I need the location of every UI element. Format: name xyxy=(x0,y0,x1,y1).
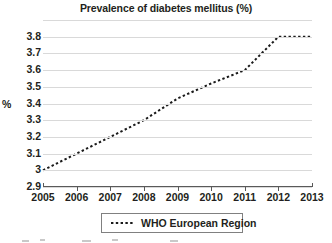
gridline xyxy=(43,154,312,155)
y-tick-label: 3.4 xyxy=(1,98,41,109)
page-edge-artifacts xyxy=(0,238,332,243)
x-axis-tick xyxy=(178,187,179,191)
y-tick-label: 3.6 xyxy=(1,64,41,75)
legend-label-who-european-region: WHO European Region xyxy=(141,217,257,229)
y-tick-label: 3.5 xyxy=(1,81,41,92)
gridline xyxy=(43,20,312,21)
chart-legend: WHO European Region xyxy=(101,213,243,233)
gridline xyxy=(43,170,312,171)
y-tick-label: 3.2 xyxy=(1,131,41,142)
x-tick-label: 2013 xyxy=(292,191,332,203)
artifact-mark xyxy=(40,239,45,241)
x-axis-tick xyxy=(144,187,145,191)
artifact-mark xyxy=(22,240,29,242)
x-axis-tick xyxy=(110,187,111,191)
gridline xyxy=(43,70,312,71)
gridline xyxy=(43,37,312,38)
x-axis-tick xyxy=(77,187,78,191)
x-axis-tick xyxy=(245,187,246,191)
gridline xyxy=(43,137,312,138)
y-tick-label: 3.7 xyxy=(1,47,41,58)
y-tick-label: 3.3 xyxy=(1,114,41,125)
y-tick-label: 3.8 xyxy=(1,31,41,42)
artifact-mark xyxy=(112,239,118,241)
x-axis-left-cap xyxy=(43,183,44,187)
y-axis-tick-labels: 2.933.13.23.33.43.53.63.73.8 xyxy=(0,0,41,243)
gridline xyxy=(43,120,312,121)
chart-title: Prevalence of diabetes mellitus (%) xyxy=(0,2,332,14)
x-axis-right-cap xyxy=(312,183,313,187)
x-axis-tick xyxy=(211,187,212,191)
x-axis-tick xyxy=(278,187,279,191)
plot-area xyxy=(43,20,312,187)
gridline xyxy=(43,104,312,105)
artifact-mark xyxy=(82,240,91,242)
diabetes-prevalence-chart: Prevalence of diabetes mellitus (%) % 2.… xyxy=(0,0,332,243)
y-tick-label: 3.1 xyxy=(1,148,41,159)
gridline xyxy=(43,87,312,88)
y-tick-label: 3 xyxy=(1,164,41,175)
gridline xyxy=(43,53,312,54)
artifact-mark xyxy=(170,240,178,242)
legend-line-swatch xyxy=(111,218,135,228)
